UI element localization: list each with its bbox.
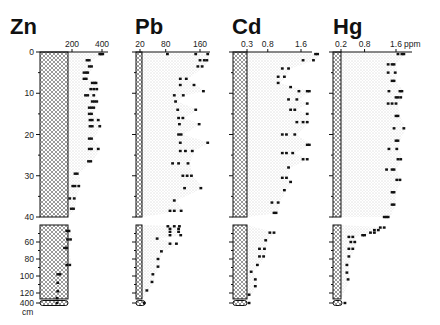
data-point bbox=[85, 78, 88, 80]
data-point bbox=[169, 210, 172, 212]
data-point bbox=[173, 94, 176, 96]
data-point bbox=[281, 133, 284, 135]
depth-tick-label: 100 bbox=[20, 271, 34, 281]
data-point bbox=[185, 78, 188, 80]
data-point bbox=[289, 181, 292, 183]
data-point bbox=[402, 53, 405, 55]
data-point bbox=[306, 158, 309, 160]
depth-tick-label: 60 bbox=[25, 237, 35, 247]
data-point bbox=[181, 175, 184, 177]
data-point bbox=[169, 243, 172, 245]
data-point bbox=[383, 226, 386, 228]
data-point bbox=[312, 59, 315, 61]
data-point bbox=[369, 231, 372, 233]
data-point bbox=[347, 236, 350, 238]
data-point bbox=[201, 65, 204, 67]
data-point bbox=[285, 133, 288, 135]
data-point bbox=[250, 271, 253, 273]
data-point bbox=[388, 90, 391, 92]
data-point bbox=[302, 158, 305, 160]
data-point bbox=[68, 230, 71, 232]
data-point bbox=[287, 67, 290, 69]
depth-unit-label: cm bbox=[22, 307, 33, 317]
data-point bbox=[388, 148, 391, 150]
background-level-bar-lower bbox=[136, 225, 142, 299]
data-point bbox=[206, 142, 209, 144]
data-point bbox=[90, 137, 93, 139]
element-title: Cd bbox=[232, 14, 261, 39]
data-point bbox=[145, 289, 148, 291]
data-point bbox=[289, 86, 292, 88]
panel-pb: Pb2080160 bbox=[132, 14, 210, 306]
background-level-bar-upper bbox=[136, 52, 142, 217]
data-point bbox=[397, 96, 400, 98]
data-point bbox=[181, 117, 184, 119]
data-point bbox=[92, 94, 95, 96]
data-point bbox=[289, 109, 292, 111]
background-level-bar-upper bbox=[40, 52, 68, 217]
data-point bbox=[393, 191, 396, 193]
data-point bbox=[277, 201, 280, 203]
data-point bbox=[206, 53, 209, 55]
data-point bbox=[151, 273, 154, 275]
data-point bbox=[194, 53, 197, 55]
x-tick-label: 0.8 bbox=[359, 39, 371, 49]
data-point bbox=[347, 278, 350, 280]
data-point bbox=[349, 241, 352, 243]
data-point bbox=[160, 250, 163, 252]
data-point bbox=[176, 109, 179, 111]
data-point bbox=[89, 160, 92, 162]
data-point bbox=[275, 212, 278, 214]
data-point bbox=[393, 168, 396, 170]
data-point bbox=[88, 59, 91, 61]
data-point bbox=[308, 90, 311, 92]
data-point bbox=[169, 228, 172, 230]
data-point bbox=[169, 234, 172, 236]
data-point bbox=[285, 152, 288, 154]
data-point bbox=[373, 229, 376, 231]
data-point bbox=[199, 59, 202, 61]
data-point bbox=[254, 278, 257, 280]
data-point bbox=[281, 152, 284, 154]
data-point bbox=[65, 247, 68, 249]
x-tick-label: 0.3 bbox=[241, 39, 253, 49]
data-point bbox=[256, 264, 259, 266]
data-point bbox=[91, 119, 94, 121]
data-point bbox=[298, 90, 301, 92]
background-level-bar-upper bbox=[233, 52, 247, 217]
data-point bbox=[205, 59, 208, 61]
data-point bbox=[291, 152, 294, 154]
data-point bbox=[92, 106, 95, 108]
data-point bbox=[86, 71, 89, 73]
data-point bbox=[86, 94, 89, 96]
data-point bbox=[385, 168, 388, 170]
data-point bbox=[391, 102, 394, 104]
depth-tick-label: 0 bbox=[29, 47, 34, 57]
data-point bbox=[387, 71, 390, 73]
data-point bbox=[180, 133, 183, 135]
depth-tick-label: 80 bbox=[25, 254, 35, 264]
x-tick-label: 80 bbox=[161, 39, 171, 49]
data-point bbox=[69, 238, 72, 240]
data-point bbox=[268, 231, 271, 233]
data-point bbox=[281, 177, 284, 179]
data-point bbox=[393, 127, 396, 129]
data-point bbox=[199, 187, 202, 189]
data-point bbox=[262, 255, 265, 257]
enrichment-area-upper bbox=[341, 52, 406, 217]
data-point bbox=[351, 236, 354, 238]
data-point bbox=[92, 88, 95, 90]
data-point bbox=[97, 119, 100, 121]
data-point bbox=[248, 294, 251, 296]
data-point bbox=[177, 228, 180, 230]
x-tick-label: 1.6 bbox=[295, 39, 307, 49]
data-point bbox=[194, 109, 197, 111]
panels: Zn200400Pb2080160Cd0.30.81.6Hg0.20.81.6p… bbox=[10, 14, 421, 306]
data-point bbox=[179, 234, 182, 236]
data-point bbox=[283, 189, 286, 191]
data-point bbox=[182, 94, 185, 96]
data-point bbox=[190, 175, 193, 177]
data-point bbox=[345, 264, 348, 266]
data-point bbox=[203, 59, 206, 61]
data-point bbox=[271, 201, 274, 203]
